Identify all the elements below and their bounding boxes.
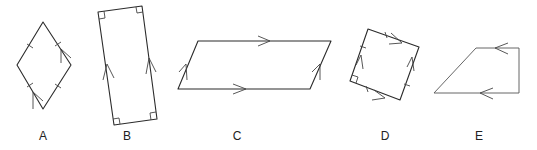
shape-b-rectangle: [98, 6, 157, 125]
label-d: D: [381, 129, 390, 143]
quadrilaterals-diagram: A B C D: [0, 0, 537, 150]
label-a: A: [39, 129, 47, 143]
label-c: C: [233, 129, 242, 143]
label-e: E: [475, 129, 483, 143]
shape-d-quadrilateral: [350, 29, 419, 100]
shape-a-rhombus: [17, 22, 71, 109]
label-b: B: [123, 129, 131, 143]
shape-e-trapezoid: [434, 43, 519, 99]
shape-c-parallelogram: [178, 36, 331, 94]
